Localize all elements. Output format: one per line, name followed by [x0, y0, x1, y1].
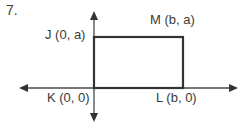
y-axis-up-arrow-icon [90, 11, 98, 20]
rectangle-jmlk [94, 37, 183, 88]
point-k-label: K (0, 0) [47, 91, 90, 105]
x-axis-left-arrow-icon [19, 84, 28, 92]
problem-number: 7. [6, 2, 18, 18]
point-j-label: J (0, a) [45, 28, 85, 42]
coordinate-diagram: 7. J (0, a) M (b, a) K (0, 0) L (b, 0) [0, 0, 249, 127]
point-m-label: M (b, a) [150, 13, 195, 27]
y-axis-down-arrow-icon [90, 113, 98, 122]
point-l-label: L (b, 0) [156, 91, 197, 105]
diagram-canvas [0, 0, 249, 127]
x-axis-right-arrow-icon [229, 84, 238, 92]
